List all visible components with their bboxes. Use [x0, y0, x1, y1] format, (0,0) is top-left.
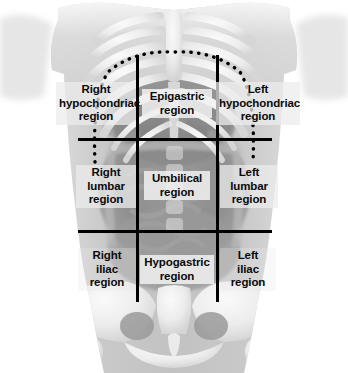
region-label-left-hypochondriac: Left hypochondriac region	[216, 82, 300, 125]
region-label-left-iliac: Left iliac region	[220, 248, 276, 291]
region-label-epigastric: Epigastric region	[142, 89, 212, 118]
left-midclavicular-line	[136, 55, 139, 302]
region-label-left-lumbar: Left lumbar region	[220, 165, 278, 208]
intertubercular-line	[78, 230, 272, 233]
region-label-umbilical: Umbilical region	[144, 171, 210, 200]
region-label-hypogastric: Hypogastric region	[140, 255, 214, 284]
abdominal-regions-figure: Right hypochondriac region Epigastric re…	[0, 0, 348, 373]
region-label-right-iliac: Right iliac region	[78, 248, 136, 291]
region-label-right-hypochondriac: Right hypochondriac region	[56, 82, 136, 125]
subcostal-line	[78, 138, 272, 141]
region-label-right-lumbar: Right lumbar region	[76, 165, 136, 208]
